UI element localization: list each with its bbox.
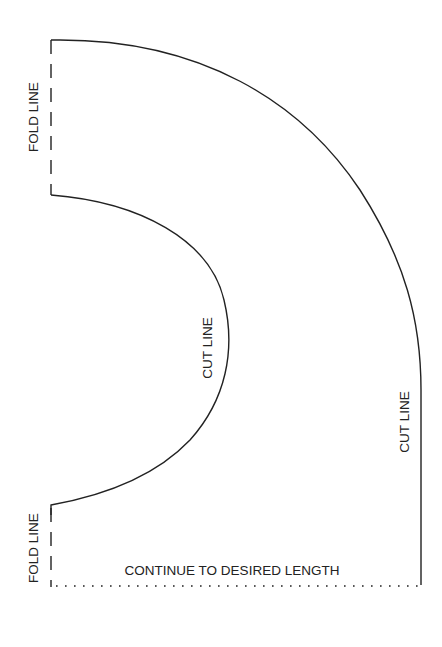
pattern-diagram: FOLD LINE FOLD LINE CUT LINE CUT LINE CO… [0,0,442,647]
outer-cut-line [51,40,421,585]
fold-line-bottom-label: FOLD LINE [26,513,41,583]
cut-line-inner-label: CUT LINE [200,317,215,378]
fold-line-top-label: FOLD LINE [26,82,41,152]
continue-label: CONTINUE TO DESIRED LENGTH [125,563,340,578]
cut-line-outer-label: CUT LINE [397,391,412,452]
